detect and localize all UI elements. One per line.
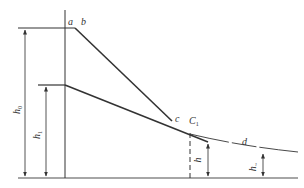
label-c1: C1: [189, 115, 199, 127]
label-h0: h0: [11, 106, 23, 114]
label-h: h: [192, 158, 203, 163]
label-c: c: [175, 113, 180, 124]
label-hn: h~: [247, 162, 259, 171]
label-h1: h1: [31, 131, 43, 139]
line-h1-to-c1: [65, 85, 208, 142]
diagram-canvas: a b c C1 d h0 h1 h h~: [0, 0, 304, 188]
label-a: a: [68, 16, 73, 27]
label-b: b: [81, 16, 86, 27]
line-b-c: [75, 28, 172, 121]
